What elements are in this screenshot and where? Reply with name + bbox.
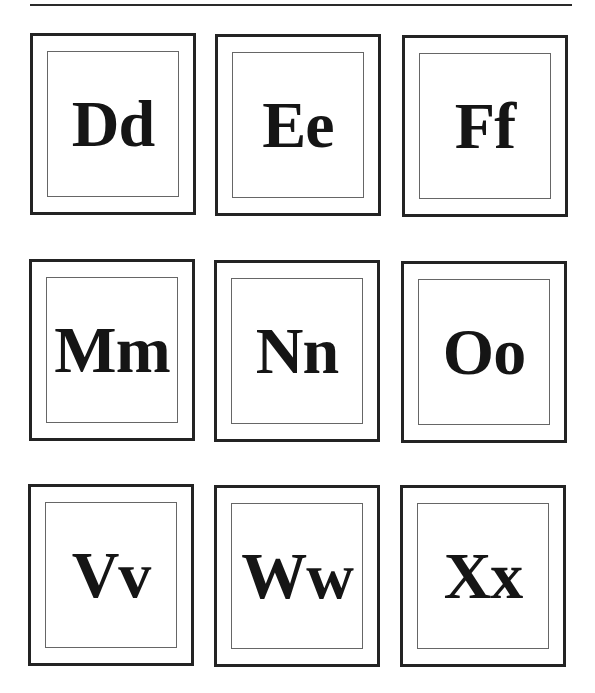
card-letters: Ee <box>262 92 333 158</box>
letter-card-ww: Ww <box>214 485 380 667</box>
card-inner-frame: Dd <box>47 51 179 197</box>
card-inner-frame: Ff <box>419 53 551 199</box>
card-inner-frame: Ee <box>232 52 364 198</box>
card-inner-frame: Xx <box>417 503 549 649</box>
card-inner-frame: Mm <box>46 277 178 423</box>
card-inner-frame: Ww <box>231 503 363 649</box>
card-letters: Xx <box>444 543 523 609</box>
letter-card-mm: Mm <box>29 259 195 441</box>
letter-card-xx: Xx <box>400 485 566 667</box>
card-letters: Ff <box>455 93 515 159</box>
card-letters: Dd <box>72 91 154 157</box>
card-letters: Ww <box>241 543 353 609</box>
letter-card-vv: Vv <box>28 484 194 666</box>
top-rule <box>30 4 572 6</box>
letter-card-dd: Dd <box>30 33 196 215</box>
letter-card-ff: Ff <box>402 35 568 217</box>
letter-card-nn: Nn <box>214 260 380 442</box>
card-letters: Vv <box>72 542 151 608</box>
letter-card-ee: Ee <box>215 34 381 216</box>
card-letters: Mm <box>54 317 169 383</box>
card-inner-frame: Vv <box>45 502 177 648</box>
card-inner-frame: Nn <box>231 278 363 424</box>
card-inner-frame: Oo <box>418 279 550 425</box>
card-letters: Oo <box>443 319 525 385</box>
card-letters: Nn <box>256 318 338 384</box>
letter-card-oo: Oo <box>401 261 567 443</box>
